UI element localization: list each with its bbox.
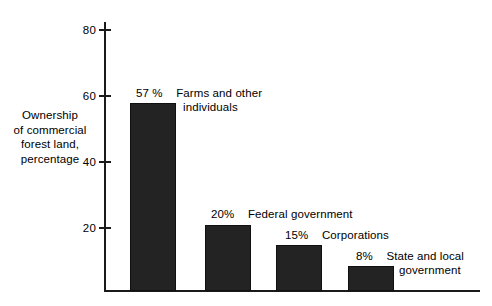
y-tick-mark-40 — [99, 161, 111, 163]
bar-annotation-federal: 20% Federal government — [211, 207, 353, 221]
bar-category-label-state-local: State and local — [386, 250, 464, 262]
y-axis-title-line-2: of commercial — [2, 123, 98, 138]
bar-value-label-state-local: 8% — [356, 250, 373, 262]
y-tick-label-80: 80 — [0, 24, 96, 36]
bar-value-label-farms: 57 % — [136, 87, 163, 99]
y-tick-mark-80 — [99, 29, 111, 31]
bar-category-label-federal: Federal government — [248, 208, 353, 220]
bar-corporations — [276, 245, 322, 291]
y-tick-mark-20 — [99, 227, 111, 229]
bar-federal-government — [205, 225, 251, 291]
y-tick-label-20: 20 — [0, 222, 96, 234]
y-axis-title-line-1: Ownership — [2, 108, 98, 123]
y-axis-title: Ownership of commercial forest land, per… — [2, 108, 98, 166]
bar-annotation-farms: 57 % Farms and other — [136, 86, 262, 100]
y-axis-line — [104, 22, 106, 292]
bar-category-label-corporations: Corporations — [322, 229, 389, 241]
y-tick-mark-60 — [99, 95, 111, 97]
bar-category-label-farms: Farms and other — [176, 87, 262, 99]
y-tick-label-60: 60 — [0, 90, 96, 102]
bar-chart-figure: 80 60 40 20 Ownership of commercial fore… — [0, 0, 492, 306]
bar-annotation-corporations: 15% Corporations — [285, 228, 389, 242]
bar-value-label-corporations: 15% — [285, 229, 308, 241]
bar-farms-and-other-individuals — [130, 103, 176, 291]
y-axis-title-line-3: forest land, — [2, 137, 98, 152]
bar-value-label-federal: 20% — [211, 208, 234, 220]
bar-category-label-state-local-line2: government — [399, 263, 461, 277]
y-axis-title-line-4: percentage — [2, 152, 98, 167]
bar-annotation-state-local: 8% State and local — [356, 249, 464, 263]
bar-state-and-local-government — [348, 266, 394, 291]
bar-category-label-farms-line2: individuals — [183, 100, 238, 114]
